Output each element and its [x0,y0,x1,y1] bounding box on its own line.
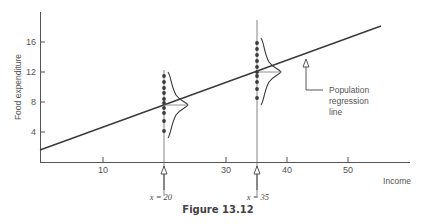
x-tick-label-50: 50 [343,165,353,175]
x-axis-title: Income [383,176,411,186]
figure-caption-text: Figure 13.12 [182,204,253,215]
annotation-line-3: line [329,107,343,117]
y-axis-title: Food expenditure [13,54,23,120]
y-tick-label-8: 8 [31,97,36,107]
x35-label: x = 35 [246,192,269,202]
normal-curve-x35 [261,38,281,105]
hollow-arrow-up-icon [254,166,260,174]
annotation-line-1: Population [329,85,369,95]
x20-marker: x = 20 [149,166,173,202]
y-tick-label-12: 12 [26,67,36,77]
hollow-arrow-up-icon [303,59,309,67]
regression-chart: 16 12 8 4 10 30 40 50 Food expenditure I… [0,0,426,224]
regression-annotation: Population regression line [303,59,369,117]
y-ticks: 16 12 8 4 [26,37,45,137]
x-tick-label-10: 10 [98,165,108,175]
x35-marker: x = 35 [246,166,269,202]
x-tick-label-30: 30 [221,165,231,175]
annotation-line-2: regression [329,96,369,106]
x-ticks: 10 30 40 50 [98,157,353,175]
x20-label: x = 20 [149,192,173,202]
figure-caption: Figure 13.12 [0,204,426,215]
x-tick-label-40: 40 [282,165,292,175]
y-tick-label-16: 16 [26,37,36,47]
y-tick-label-4: 4 [31,127,36,137]
hollow-arrow-up-icon [161,166,167,174]
